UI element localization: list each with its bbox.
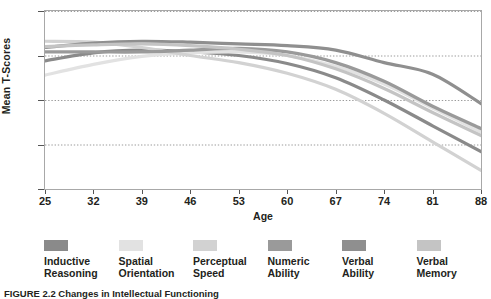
legend-label-line1: Perceptual <box>193 256 268 268</box>
legend-color-swatch <box>268 240 292 251</box>
legend-item[interactable]: NumericAbility <box>268 240 343 284</box>
x-axis-tick-label: 67 <box>321 195 351 207</box>
x-axis-tick-label: 60 <box>272 195 302 207</box>
legend-label-line2: Memory <box>417 268 491 280</box>
x-axis-tick-mark <box>433 190 434 194</box>
legend-label-line1: Inductive <box>44 256 119 268</box>
legend-item[interactable]: VerbalAbility <box>342 240 417 284</box>
legend-label-line2: Speed <box>193 268 268 280</box>
x-axis-tick-label: 81 <box>418 195 448 207</box>
legend-item[interactable]: PerceptualSpeed <box>193 240 268 284</box>
x-axis-tick-mark <box>142 190 143 194</box>
x-axis-tick-label: 88 <box>466 195 491 207</box>
legend-color-swatch <box>342 240 366 251</box>
x-axis-tick-label: 39 <box>127 195 157 207</box>
x-axis-tick-mark <box>384 190 385 194</box>
x-axis-tick-label: 74 <box>369 195 399 207</box>
x-axis-tick-label: 53 <box>224 195 254 207</box>
data-line-series-1 <box>45 52 481 132</box>
x-axis-tick-mark <box>239 190 240 194</box>
figure-caption: FIGURE 2.2 Changes in Intellectual Funct… <box>4 288 491 299</box>
legend-label-line1: Spatial <box>119 256 194 268</box>
legend-label-line1: Verbal <box>417 256 491 268</box>
legend-item[interactable]: SpatialOrientation <box>119 240 194 284</box>
x-axis-tick-mark <box>287 190 288 194</box>
legend-label-line2: Orientation <box>119 268 194 280</box>
x-axis-tick-label: 32 <box>78 195 108 207</box>
legend-color-swatch <box>193 240 217 251</box>
x-axis-title: Age <box>44 210 482 222</box>
y-axis-title: Mean T-Scores <box>0 0 12 156</box>
legend-label-line1: Verbal <box>342 256 417 268</box>
legend-color-swatch <box>44 240 68 251</box>
legend-color-swatch <box>417 240 441 251</box>
legend-label-line2: Ability <box>268 268 343 280</box>
x-axis-tick-mark <box>190 190 191 194</box>
legend-label-line1: Numeric <box>268 256 343 268</box>
legend-color-swatch <box>119 240 143 251</box>
legend-label-line2: Ability <box>342 268 417 280</box>
legend-item[interactable]: VerbalMemory <box>417 240 491 284</box>
x-axis-tick-mark <box>336 190 337 194</box>
x-axis-tick-mark <box>45 190 46 194</box>
line-chart-svg <box>45 11 481 189</box>
x-axis-tick-mark <box>93 190 94 194</box>
plot-area <box>44 10 482 190</box>
x-axis-tick-label: 46 <box>175 195 205 207</box>
legend-label-line2: Reasoning <box>44 268 119 280</box>
x-axis-tick-mark <box>481 190 482 194</box>
x-axis-tick-label: 25 <box>30 195 60 207</box>
chart-legend: InductiveReasoningSpatialOrientationPerc… <box>44 240 491 284</box>
legend-item[interactable]: InductiveReasoning <box>44 240 119 284</box>
